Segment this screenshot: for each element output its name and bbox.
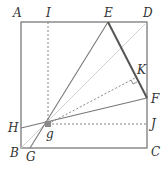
dashed-line-gk (48, 78, 135, 124)
label-k: K (136, 63, 147, 77)
label-c: C (151, 145, 160, 159)
label-d: D (142, 6, 153, 20)
segment-ef (108, 22, 147, 98)
line-hf (21, 98, 147, 128)
label-e: E (103, 6, 113, 20)
line-ge (30, 22, 108, 148)
label-g-bottom: G (26, 150, 36, 164)
label-f: F (150, 92, 160, 106)
geometry-diagram: A I E D K F J C H g B G (0, 0, 165, 169)
label-b: B (9, 146, 19, 160)
label-h: H (7, 121, 19, 135)
label-i: I (45, 6, 51, 20)
label-a: A (12, 6, 22, 20)
label-j: J (148, 117, 157, 131)
label-g-point: g (46, 127, 54, 141)
right-angle-marker (131, 80, 137, 84)
diagonal-bd (21, 24, 145, 148)
